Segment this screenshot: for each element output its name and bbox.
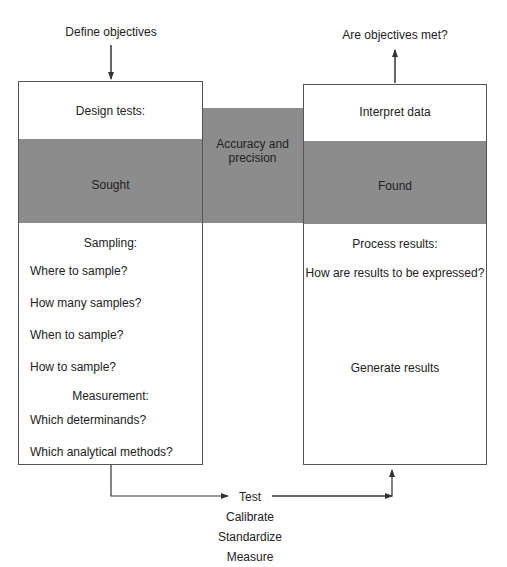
- objectives-met-label: Are objectives met?: [325, 28, 465, 42]
- interpret-data-label: Interpret data: [303, 105, 487, 119]
- sampling-title: Sampling:: [18, 236, 203, 250]
- sampling-item: How many samples?: [30, 296, 141, 310]
- accuracy-label: Accuracy and: [202, 137, 303, 151]
- found-label: Found: [303, 179, 487, 193]
- step-measure: Measure: [210, 550, 290, 564]
- step-standardize: Standardize: [210, 530, 290, 544]
- generate-results-label: Generate results: [303, 361, 487, 375]
- process-results-title: Process results:: [303, 237, 487, 251]
- sought-label: Sought: [18, 178, 203, 192]
- step-calibrate: Calibrate: [210, 510, 290, 524]
- measurement-item: Which determinands?: [30, 413, 146, 427]
- results-expressed-item: How are results to be expressed?: [303, 266, 487, 280]
- design-tests-label: Design tests:: [18, 104, 203, 118]
- define-objectives-label: Define objectives: [40, 25, 182, 39]
- accuracy-precision-band: [202, 108, 303, 223]
- step-test: Test: [210, 490, 290, 504]
- measurement-title: Measurement:: [18, 389, 203, 403]
- sampling-item: When to sample?: [30, 328, 123, 342]
- sampling-item: Where to sample?: [30, 264, 127, 278]
- measurement-item: Which analytical methods?: [30, 445, 173, 459]
- sampling-item: How to sample?: [30, 360, 116, 374]
- precision-label: precision: [202, 151, 303, 165]
